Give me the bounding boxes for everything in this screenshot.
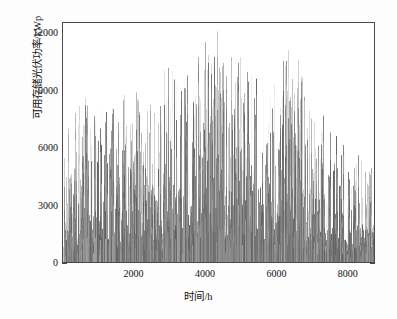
- y-tick-label-6000: 6000: [18, 143, 58, 153]
- x-tick-label-4000: 4000: [180, 268, 230, 279]
- x-tick-label-6000: 6000: [251, 268, 301, 279]
- y-tick-label-0: 0: [18, 258, 58, 268]
- x-tick-label-2000: 2000: [108, 268, 158, 279]
- y-axis-label: 可用存储光伏功率/kWp: [29, 0, 44, 148]
- axis-tick: [62, 263, 67, 264]
- x-tick-label-8000: 8000: [323, 268, 373, 279]
- data-series-canvas: [63, 23, 374, 262]
- y-tick-label-9000: 9000: [18, 86, 58, 96]
- plot-area: [62, 22, 375, 263]
- x-axis-label: 时间/h: [0, 288, 397, 303]
- y-tick-label-3000: 3000: [18, 201, 58, 211]
- chart-figure: 可用存储光伏功率/kWp 0 3000 6000 9000 12000 2000…: [0, 0, 397, 319]
- y-tick-label-12000: 12000: [18, 28, 58, 38]
- axis-tick: [370, 263, 375, 264]
